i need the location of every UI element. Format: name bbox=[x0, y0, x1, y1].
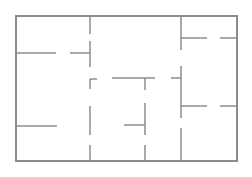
floor-plan-background bbox=[0, 0, 252, 177]
floor-plan bbox=[0, 0, 252, 177]
